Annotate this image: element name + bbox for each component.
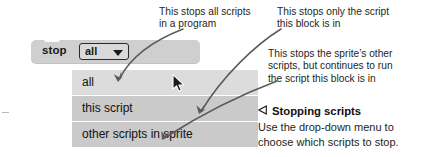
stop-block[interactable]: stop all: [31, 40, 200, 64]
callout-other-line3: the script this block is in: [268, 73, 428, 85]
dropdown-option-other-scripts-in-sprite[interactable]: other scripts in sprite: [72, 122, 258, 147]
caption-body: Use the drop-down menu to choose which s…: [258, 120, 433, 149]
chevron-down-icon: [113, 50, 123, 56]
callout-all-line2: in a program: [159, 18, 271, 30]
block-notch: [44, 37, 60, 42]
dropdown-option-all[interactable]: all: [72, 70, 258, 95]
caption-body-line2: choose which scripts to stop.: [258, 135, 433, 150]
callout-all-line1: This stops all scripts: [159, 6, 271, 18]
stop-block-label: stop: [42, 44, 67, 56]
stop-dropdown-value: all: [85, 45, 97, 57]
caption-title: Stopping scripts: [272, 104, 361, 118]
caption-body-line1: Use the drop-down menu to: [258, 120, 433, 135]
dropdown-option-this-script[interactable]: this script: [72, 96, 258, 121]
callout-other-scripts: This stops the sprite’s other scripts, b…: [268, 48, 428, 85]
illustration-page: stop all all this script other scripts i…: [0, 0, 433, 157]
callout-all-scripts: This stops all scripts in a program: [159, 6, 271, 31]
callout-this-line1: This stops only the script: [277, 6, 401, 18]
callout-other-line1: This stops the sprite’s other: [268, 48, 428, 60]
gutter-tick: [2, 112, 9, 113]
stop-dropdown-field[interactable]: all: [79, 43, 129, 60]
dropdown-menu[interactable]: all this script other scripts in sprite: [72, 70, 258, 148]
caption-block: Stopping scripts Use the drop-down menu …: [258, 104, 433, 149]
triangle-left-outline-icon: [258, 105, 267, 115]
callout-other-line2: scripts, but continues to run: [268, 60, 428, 72]
callout-this-script: This stops only the script this block is…: [277, 6, 401, 31]
callout-this-line2: this block is in: [277, 18, 401, 30]
mouse-pointer-icon: [172, 74, 185, 92]
caption-heading: Stopping scripts: [258, 104, 433, 118]
